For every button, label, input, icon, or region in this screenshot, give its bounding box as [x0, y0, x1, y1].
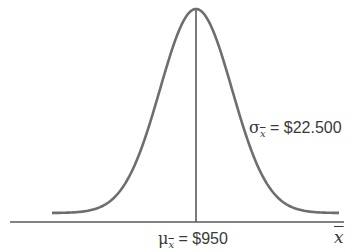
x-axis-label: x — [334, 229, 344, 246]
mu-value: = $950 — [174, 230, 228, 247]
sigma-subscript: x — [260, 128, 266, 139]
sigma-value: = $22.500 — [266, 119, 342, 136]
mean-label: μx = $950 — [158, 231, 228, 247]
std-error-label: σx = $22.500 — [249, 120, 342, 136]
sigma-symbol: σ — [249, 118, 260, 137]
mu-subscript: x — [168, 239, 174, 250]
mu-symbol: μ — [158, 229, 168, 248]
